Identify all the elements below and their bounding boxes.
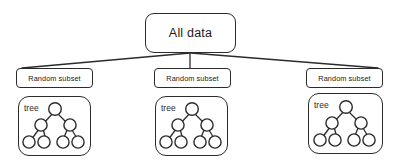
tree-node-leaf-3: [194, 136, 206, 148]
tree-label-3: tree: [314, 100, 329, 110]
tree-node-leaf-4: [209, 136, 221, 148]
tree-node-child-right: [201, 119, 213, 131]
tree-node-child-right: [64, 119, 76, 131]
tree-node-root: [340, 101, 353, 114]
tree-label-1: tree: [24, 103, 39, 113]
random-subset-label-3: Random subset: [318, 74, 370, 83]
tree-node-leaf-1: [314, 134, 326, 146]
tree-node-root: [186, 103, 199, 116]
tree-node-child-right: [355, 117, 367, 129]
tree-node-root: [49, 103, 62, 116]
tree-node-leaf-4: [72, 136, 84, 148]
tree-node-child-left: [35, 119, 47, 131]
tree-node-leaf-1: [23, 136, 35, 148]
connector-line-left: [22, 53, 190, 68]
connector-line-right: [191, 53, 378, 68]
tree-label-2: tree: [161, 103, 176, 113]
random-forest-diagram: All data Random subset Random subset Ran…: [0, 0, 400, 168]
tree-node-leaf-1: [160, 136, 172, 148]
random-subset-node-1: Random subset: [16, 68, 93, 88]
random-subset-label-2: Random subset: [166, 74, 218, 83]
tree-node-leaf-3: [348, 134, 360, 146]
tree-node-leaf-3: [57, 136, 69, 148]
random-subset-label-1: Random subset: [28, 74, 80, 83]
tree-node-leaf-4: [363, 134, 375, 146]
tree-node-child-left: [172, 119, 184, 131]
tree-node-child-left: [326, 117, 338, 129]
random-subset-node-2: Random subset: [154, 68, 231, 88]
all-data-label: All data: [169, 26, 212, 40]
all-data-node: All data: [145, 13, 236, 53]
tree-node-leaf-2: [329, 134, 341, 146]
tree-node-leaf-2: [175, 136, 187, 148]
tree-node-leaf-2: [38, 136, 50, 148]
random-subset-node-3: Random subset: [306, 68, 383, 88]
